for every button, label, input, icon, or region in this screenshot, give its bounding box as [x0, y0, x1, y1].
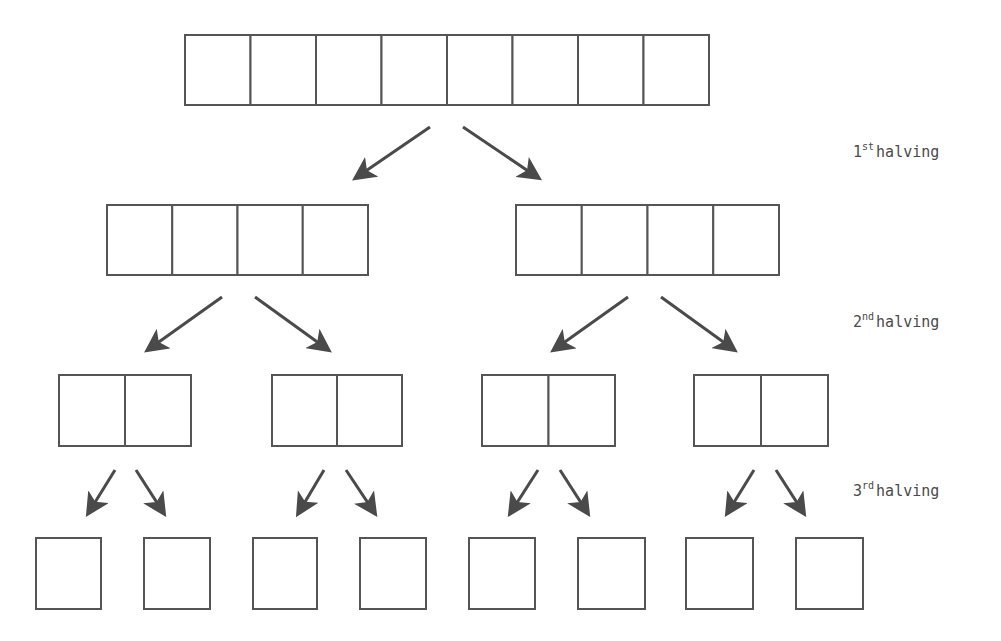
arrow-icon [776, 470, 803, 512]
array-cell [251, 35, 317, 105]
array-cell [125, 375, 191, 446]
array-cell [172, 205, 237, 275]
array-cell [648, 205, 714, 275]
array-cell [713, 205, 779, 275]
array-cell [272, 375, 337, 446]
arrow-icon [661, 297, 733, 349]
array-cell [360, 538, 426, 609]
arrow-icon [357, 127, 430, 177]
label-text: halving [876, 482, 939, 500]
array-group-level-3 [59, 375, 191, 446]
ordinal-suffix: rd [862, 480, 874, 491]
array-cell [107, 205, 172, 275]
arrow-icon [560, 470, 587, 512]
array-group-level-4 [686, 538, 753, 609]
array-cell [513, 35, 579, 105]
array-group-level-1 [185, 35, 709, 105]
arrow-icon [555, 297, 628, 349]
array-group-level-3 [694, 375, 828, 446]
ordinal-suffix: st [862, 141, 874, 152]
array-cell [238, 205, 303, 275]
array-cell [303, 205, 368, 275]
array-cell [253, 538, 317, 609]
array-group-level-2 [516, 205, 779, 275]
halving-diagram [0, 0, 1001, 641]
array-group-level-4 [36, 538, 101, 609]
halving-label: 3rdhalving [853, 481, 939, 500]
array-groups [36, 35, 863, 609]
array-cell [516, 205, 582, 275]
array-group-level-4 [796, 538, 863, 609]
array-cell [144, 538, 210, 609]
halving-label: 2ndhalving [853, 312, 939, 331]
array-cell [644, 35, 710, 105]
array-cell [582, 205, 648, 275]
array-group-level-3 [482, 375, 615, 446]
array-cell [337, 375, 402, 446]
arrow-icon [299, 470, 324, 512]
label-text: halving [876, 143, 939, 161]
halving-label: 1sthalving [853, 142, 939, 161]
ordinal-suffix: nd [862, 311, 874, 322]
arrow-icon [136, 470, 163, 512]
array-cell [469, 538, 535, 609]
array-group-level-4 [469, 538, 535, 609]
array-cell [316, 35, 382, 105]
ordinal-number: 1 [853, 143, 862, 161]
array-cell [578, 35, 644, 105]
ordinal-number: 2 [853, 313, 862, 331]
array-group-level-4 [360, 538, 426, 609]
arrow-icon [511, 470, 538, 512]
array-cell [185, 35, 251, 105]
array-cell [796, 538, 863, 609]
array-cell [686, 538, 753, 609]
arrow-icon [255, 297, 327, 349]
array-group-level-3 [272, 375, 402, 446]
array-group-level-4 [578, 538, 645, 609]
arrow-icon [149, 297, 222, 349]
array-group-level-4 [144, 538, 210, 609]
array-cell [694, 375, 761, 446]
array-cell [36, 538, 101, 609]
array-cell [447, 35, 513, 105]
array-cell [761, 375, 828, 446]
arrow-icon [463, 127, 537, 177]
array-group-level-2 [107, 205, 368, 275]
arrow-icon [89, 470, 115, 512]
array-cell [578, 538, 645, 609]
array-group-level-4 [253, 538, 317, 609]
array-cell [59, 375, 125, 446]
ordinal-number: 3 [853, 482, 862, 500]
array-cell [382, 35, 448, 105]
array-cell [549, 375, 616, 446]
array-cell [482, 375, 549, 446]
arrow-icon [728, 470, 754, 512]
split-arrows [89, 127, 803, 512]
label-text: halving [876, 313, 939, 331]
arrow-icon [346, 470, 374, 512]
